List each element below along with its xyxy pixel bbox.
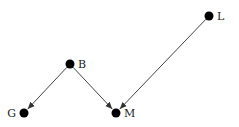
edges — [28, 19, 206, 109]
node-label: M — [124, 107, 135, 120]
node-dot — [66, 60, 75, 69]
edge-L-M — [120, 19, 206, 109]
node-L: L — [205, 10, 226, 23]
node-label: B — [78, 58, 86, 71]
edge-B-M — [73, 67, 112, 109]
node-dot — [112, 109, 121, 118]
graph-canvas: LBGM — [0, 0, 239, 127]
node-dot — [20, 109, 29, 118]
node-label: L — [217, 10, 225, 23]
node-label: G — [7, 107, 16, 120]
node-B: B — [66, 58, 87, 71]
edge-B-G — [28, 67, 67, 109]
node-G: G — [7, 107, 28, 120]
nodes: LBGM — [7, 10, 225, 120]
node-dot — [205, 12, 214, 21]
node-M: M — [112, 107, 136, 120]
